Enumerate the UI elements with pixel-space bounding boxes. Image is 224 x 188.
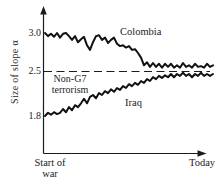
- y-tick-label-1-8: 1.8: [20, 111, 41, 121]
- figure-terrorism-slope-chart: Size of slope α 3.0 2.5 1.8 Colombia Ira…: [0, 0, 224, 188]
- non-g7-terrorism-label: Non-G7 terrorism: [49, 74, 91, 95]
- y-tick-label-2-5: 2.5: [20, 66, 41, 76]
- x-axis-end-label: Today: [189, 157, 215, 168]
- y-axis-title: Size of slope α: [9, 40, 20, 104]
- x-axis-start-label: Start of war: [29, 157, 71, 179]
- colombia-series-label: Colombia: [120, 26, 161, 37]
- y-axis-arrow-icon: [40, 6, 47, 15]
- x-axis-arrow-icon: [198, 150, 207, 157]
- y-tick-label-3-0: 3.0: [20, 28, 41, 38]
- colombia-line: [45, 33, 213, 68]
- iraq-series-label: Iraq: [125, 97, 142, 108]
